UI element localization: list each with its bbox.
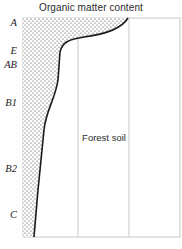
- horizon-label-b2: B2: [5, 163, 17, 174]
- horizon-label-c: C: [10, 209, 17, 220]
- horizon-label-ab: AB: [4, 59, 17, 70]
- horizon-label-b1: B1: [5, 97, 17, 108]
- horizon-label-e: E: [11, 45, 17, 56]
- organic-matter-area: [23, 18, 128, 237]
- forest-soil-label: Forest soil: [80, 132, 128, 143]
- soil-profile-chart: [0, 0, 182, 249]
- horizon-label-a: A: [11, 17, 17, 28]
